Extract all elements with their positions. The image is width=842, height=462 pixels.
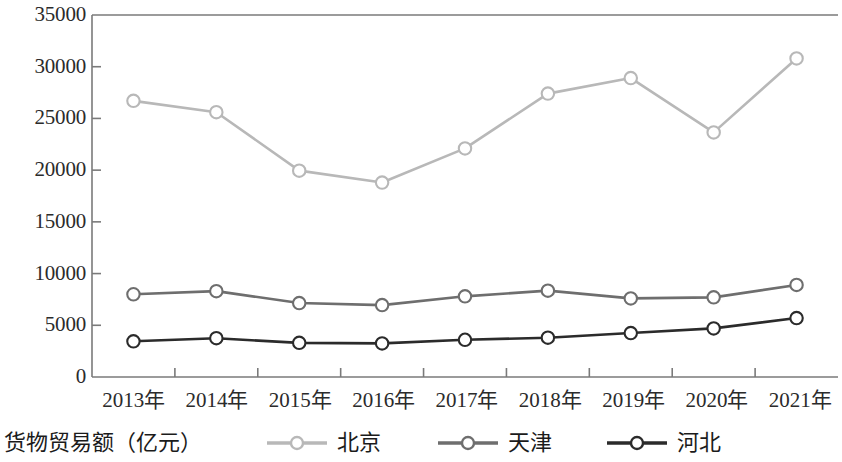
legend-marker-beijing-icon — [266, 433, 328, 453]
x-tick-label: 2019年 — [592, 385, 675, 417]
data-point-marker — [293, 164, 305, 176]
x-axis-tick-labels: 2013年 2014年 2015年 2016年 2017年 2018年 2019… — [92, 385, 842, 417]
axis-frame — [92, 15, 838, 377]
x-tick-label: 2020年 — [675, 385, 758, 417]
data-point-marker — [210, 332, 222, 344]
x-tick-label: 2013年 — [92, 385, 175, 417]
data-point-marker — [790, 52, 802, 64]
legend-label-beijing: 北京 — [337, 429, 381, 457]
data-point-marker — [625, 327, 637, 339]
series-北京 — [127, 52, 803, 189]
legend-item-beijing: 北京 — [266, 429, 381, 457]
data-point-marker — [707, 291, 719, 303]
legend-item-tianjin: 天津 — [437, 429, 552, 457]
plot-area — [0, 0, 842, 420]
data-point-marker — [790, 312, 802, 324]
data-point-marker — [376, 299, 388, 311]
x-tick-label: 2021年 — [759, 385, 842, 417]
data-point-marker — [293, 337, 305, 349]
series-layer — [127, 52, 803, 349]
data-point-marker — [293, 297, 305, 309]
data-point-marker — [459, 142, 471, 154]
goods-trade-line-chart: 35000 30000 25000 20000 15000 10000 5000… — [0, 0, 842, 462]
series-天津 — [127, 279, 803, 312]
data-point-marker — [707, 126, 719, 138]
data-point-marker — [127, 95, 139, 107]
legend-label-tianjin: 天津 — [508, 429, 552, 457]
data-point-marker — [542, 332, 554, 344]
data-point-marker — [459, 334, 471, 346]
x-tick-label: 2016年 — [342, 385, 425, 417]
data-point-marker — [625, 292, 637, 304]
legend-marker-tianjin-icon — [437, 433, 499, 453]
x-tick-label: 2014年 — [175, 385, 258, 417]
data-point-marker — [542, 87, 554, 99]
data-point-marker — [376, 337, 388, 349]
legend-item-hebei: 河北 — [606, 429, 721, 457]
data-point-marker — [625, 72, 637, 84]
legend-marker-hebei-icon — [606, 433, 668, 453]
data-point-marker — [210, 106, 222, 118]
data-point-marker — [210, 285, 222, 297]
data-point-marker — [790, 279, 802, 291]
data-point-marker — [707, 322, 719, 334]
data-point-marker — [459, 290, 471, 302]
chart-legend: 货物贸易额（亿元） 北京 天津 河北 — [0, 424, 842, 462]
data-point-marker — [127, 335, 139, 347]
x-tick-label: 2015年 — [259, 385, 342, 417]
legend-label-hebei: 河北 — [677, 429, 721, 457]
data-point-marker — [542, 284, 554, 296]
x-tick-label: 2017年 — [425, 385, 508, 417]
data-point-marker — [376, 176, 388, 188]
x-tick-label: 2018年 — [509, 385, 592, 417]
series-河北 — [127, 312, 803, 350]
data-point-marker — [127, 288, 139, 300]
y-axis-title: 货物贸易额（亿元） — [4, 428, 202, 458]
